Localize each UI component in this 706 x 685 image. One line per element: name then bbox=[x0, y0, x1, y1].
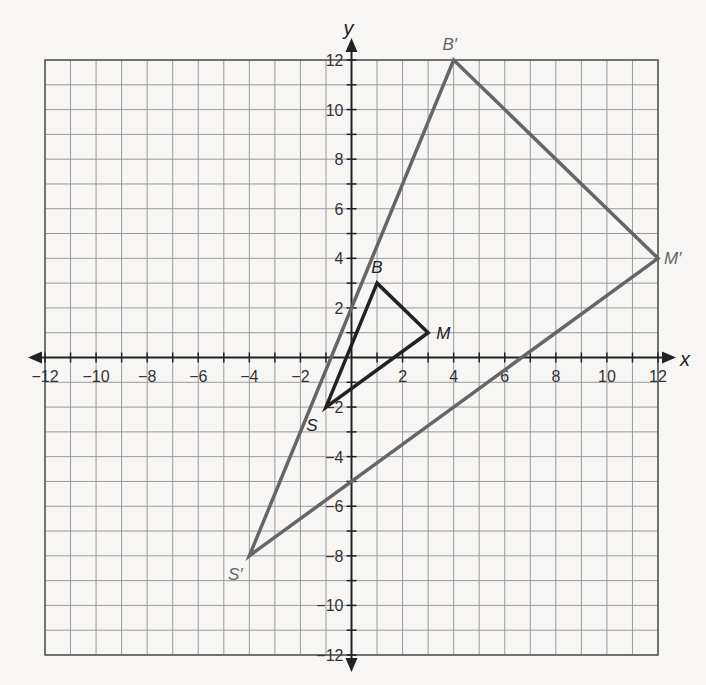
vertex-label: M′ bbox=[664, 249, 682, 268]
coordinate-plane: −12−10−8−6−4−224681012−12−10−8−6−4−22468… bbox=[0, 0, 706, 685]
x-tick-label: 2 bbox=[398, 368, 407, 385]
y-tick-label: 10 bbox=[326, 102, 344, 119]
y-tick-label: 4 bbox=[335, 250, 344, 267]
x-axis-label: x bbox=[679, 348, 691, 370]
x-tick-label: 8 bbox=[551, 368, 560, 385]
vertex-label: S bbox=[306, 416, 318, 435]
y-tick-label: 6 bbox=[335, 201, 344, 218]
x-tick-label: 4 bbox=[449, 368, 458, 385]
y-tick-label: −6 bbox=[325, 498, 343, 515]
y-axis-down-arrow-icon bbox=[346, 658, 358, 672]
x-tick-label: −6 bbox=[189, 368, 207, 385]
x-tick-label: −12 bbox=[31, 368, 58, 385]
point-labels: BMSB′M′S′ bbox=[228, 35, 682, 584]
x-tick-label: −10 bbox=[83, 368, 110, 385]
tick-labels: −12−10−8−6−4−224681012−12−10−8−6−4−22468… bbox=[31, 17, 691, 664]
y-tick-label: 8 bbox=[335, 151, 344, 168]
y-tick-label: −8 bbox=[325, 548, 343, 565]
x-tick-label: 12 bbox=[649, 368, 667, 385]
y-axis-up-arrow-icon bbox=[346, 38, 358, 52]
y-tick-label: 12 bbox=[326, 52, 344, 69]
x-tick-label: −4 bbox=[240, 368, 258, 385]
y-axis-label: y bbox=[342, 17, 355, 39]
y-tick-label: −4 bbox=[325, 449, 343, 466]
axes bbox=[28, 38, 676, 672]
y-tick-label: −12 bbox=[316, 647, 343, 664]
vertex-label: S′ bbox=[228, 565, 243, 584]
x-tick-label: 10 bbox=[598, 368, 616, 385]
vertex-label: M bbox=[436, 324, 451, 343]
x-axis-right-arrow-icon bbox=[662, 352, 676, 364]
x-tick-label: −2 bbox=[291, 368, 309, 385]
y-tick-label: −10 bbox=[316, 597, 343, 614]
x-tick-label: −8 bbox=[138, 368, 156, 385]
vertex-label: B bbox=[371, 258, 382, 277]
vertex-label: B′ bbox=[442, 35, 457, 54]
y-tick-label: 2 bbox=[335, 300, 344, 317]
x-axis-left-arrow-icon bbox=[28, 352, 42, 364]
